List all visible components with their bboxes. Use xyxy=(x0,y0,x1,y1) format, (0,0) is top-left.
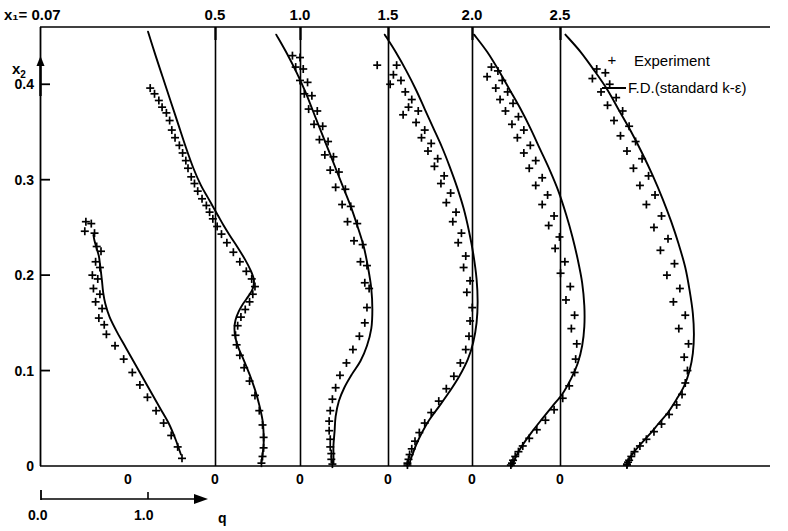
q-axis-label: q xyxy=(218,510,227,526)
experiment-plus-marker xyxy=(514,113,522,121)
experiment-plus-marker xyxy=(128,368,136,376)
experiment-plus-marker xyxy=(96,263,104,271)
experiment-plus-marker xyxy=(434,155,442,163)
q-arrow-icon xyxy=(194,494,208,504)
experiment-plus-marker xyxy=(520,149,528,157)
experiment-plus-marker xyxy=(249,290,257,298)
model-curve xyxy=(474,35,584,464)
experiment-plus-marker xyxy=(520,126,528,134)
experiment-plus-marker xyxy=(462,346,470,354)
experiment-plus-marker xyxy=(681,311,689,319)
experiment-plus-marker xyxy=(363,262,371,270)
experiment-plus-marker xyxy=(447,189,455,197)
experiment-plus-marker xyxy=(676,284,684,292)
y-axis-tick-label: 0.1 xyxy=(15,363,35,379)
experiment-plus-marker xyxy=(616,132,624,140)
experiment-plus-marker xyxy=(296,76,304,84)
experiment-plus-marker xyxy=(102,330,110,338)
top-axis-tick-label: 0.5 xyxy=(205,6,226,23)
experiment-plus-marker xyxy=(146,84,154,92)
experiment-plus-marker xyxy=(347,202,355,210)
experiment-plus-marker xyxy=(492,84,500,92)
experiment-plus-marker xyxy=(533,426,541,434)
experiment-plus-marker xyxy=(151,90,159,98)
experiment-plus-marker xyxy=(260,444,268,452)
station-zero-label: 0 xyxy=(124,471,132,487)
experiment-plus-marker xyxy=(217,230,225,238)
experiment-plus-marker xyxy=(545,222,553,230)
experiment-plus-marker xyxy=(111,342,119,350)
experiment-plus-marker xyxy=(100,321,108,329)
experiment-plus-marker xyxy=(483,73,491,81)
experiment-plus-marker xyxy=(532,181,540,189)
experiment-plus-marker xyxy=(328,460,336,468)
experiment-plus-marker xyxy=(412,118,420,126)
experiment-plus-marker xyxy=(401,88,409,96)
experiment-plus-marker xyxy=(588,75,596,83)
q-scale-mid-label: 1.0 xyxy=(134,507,154,523)
y-axis-tick-label: 0.2 xyxy=(15,267,35,283)
experiment-plus-marker xyxy=(675,325,683,333)
figure-root: 0.51.01.52.02.5 00.10.20.30.4 000000 x₁=… xyxy=(0,0,788,531)
legend-label-model: F.D.(standard k-ε) xyxy=(628,79,746,96)
experiment-plus-marker xyxy=(678,390,686,398)
experiment-plus-marker xyxy=(332,384,340,392)
experiment-plus-marker xyxy=(89,284,97,292)
y-axis-ticks xyxy=(40,84,50,370)
experiment-plus-marker xyxy=(168,126,176,134)
experiment-plus-marker xyxy=(664,235,672,243)
station-zero-label: 0 xyxy=(468,471,476,487)
experiment-plus-marker xyxy=(437,180,445,188)
experiment-plus-marker xyxy=(440,172,448,180)
experiment-plus-marker xyxy=(658,420,666,428)
experiment-plus-marker xyxy=(373,61,381,69)
experiment-plus-marker xyxy=(601,69,609,77)
experiment-plus-marker xyxy=(623,147,631,155)
experiment-plus-marker xyxy=(468,304,476,312)
experiment-plus-marker xyxy=(397,76,405,84)
experiment-plus-marker xyxy=(550,212,558,220)
model-curve xyxy=(385,35,478,464)
experiment-plus-marker xyxy=(240,364,248,372)
experiment-plus-marker xyxy=(442,199,450,207)
experiment-plus-marker xyxy=(296,54,304,62)
experiment-plus-marker xyxy=(175,141,183,149)
experiment-points-group xyxy=(81,52,693,469)
top-axis-tick-labels: 0.51.01.52.02.5 xyxy=(205,6,571,23)
model-curve xyxy=(565,35,694,464)
experiment-plus-marker xyxy=(454,239,462,247)
experiment-plus-marker xyxy=(538,174,546,182)
experiment-plus-marker xyxy=(120,355,128,363)
experiment-plus-marker xyxy=(561,258,569,266)
experiment-plus-marker xyxy=(166,117,174,125)
experiment-plus-marker xyxy=(136,381,144,389)
experiment-plus-marker xyxy=(356,258,364,266)
experiment-plus-marker xyxy=(532,157,540,165)
experiment-plus-marker xyxy=(259,452,267,460)
experiment-plus-marker xyxy=(417,134,425,142)
model-curve xyxy=(148,32,264,462)
experiment-plus-marker xyxy=(213,222,221,230)
experiment-plus-marker xyxy=(460,263,468,271)
experiment-plus-marker xyxy=(167,431,175,439)
experiment-plus-marker xyxy=(670,260,678,268)
experiment-plus-marker xyxy=(504,88,512,96)
q-scale-bar: 0.0 1.0 q xyxy=(28,490,227,526)
experiment-plus-marker xyxy=(525,434,533,442)
experiment-plus-marker xyxy=(555,233,563,241)
experiment-plus-marker xyxy=(179,149,187,157)
experiment-plus-marker xyxy=(355,332,363,340)
experiment-plus-marker xyxy=(184,164,192,172)
station-zero-labels: 000000 xyxy=(124,471,564,487)
experiment-plus-marker xyxy=(427,409,435,417)
experiment-plus-marker xyxy=(171,134,179,142)
experiment-plus-marker xyxy=(573,340,581,348)
experiment-plus-marker xyxy=(610,117,618,125)
experiment-plus-marker xyxy=(411,437,419,445)
experiment-plus-marker xyxy=(681,379,689,387)
experiment-plus-marker xyxy=(194,187,202,195)
experiment-plus-marker xyxy=(321,151,329,159)
q-scale-start-label: 0.0 xyxy=(28,507,48,523)
experiment-plus-marker xyxy=(326,166,334,174)
experiment-plus-marker xyxy=(421,126,429,134)
